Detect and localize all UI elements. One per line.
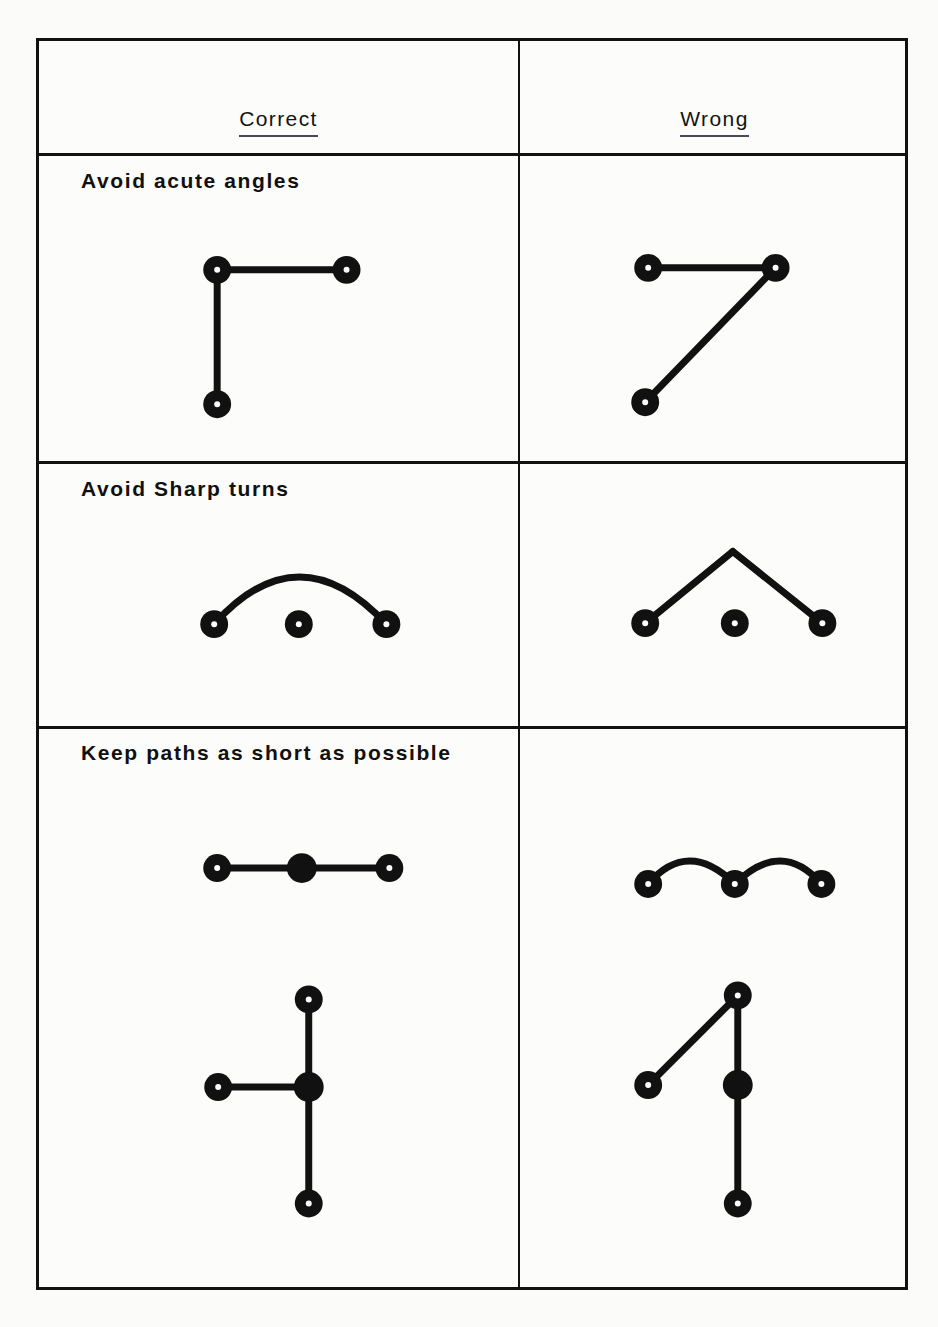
column-divider [518, 41, 520, 1287]
row2-divider [39, 726, 905, 729]
row-label-acute-angles: Avoid acute angles [81, 169, 300, 193]
header-row-divider [39, 153, 905, 156]
diagram-layer [39, 41, 905, 1287]
diagram-sharp-peak-path [631, 552, 836, 638]
diagram-smooth-arc-path [200, 577, 400, 638]
diagram-right-angle-path [203, 256, 360, 418]
row-label-sharp-turns: Avoid Sharp turns [81, 477, 289, 501]
diagram-wavy-long-path [634, 861, 835, 898]
row1-divider [39, 461, 905, 464]
header-label-wrong: Wrong [680, 107, 748, 137]
header-cell-correct: Correct [39, 41, 518, 153]
diagram-diagonal-junction-path [634, 982, 752, 1218]
row-label-short-paths: Keep paths as short as possible [81, 741, 452, 765]
header-cell-wrong: Wrong [520, 41, 909, 153]
guidelines-table: Correct Wrong Avoid acute angles Avoid S… [36, 38, 908, 1290]
diagram-acute-angle-path [631, 254, 789, 416]
header-label-correct: Correct [239, 107, 318, 137]
page-canvas: Correct Wrong Avoid acute angles Avoid S… [0, 0, 938, 1327]
diagram-tee-junction-path [204, 986, 323, 1218]
diagram-straight-short-path [203, 853, 403, 883]
